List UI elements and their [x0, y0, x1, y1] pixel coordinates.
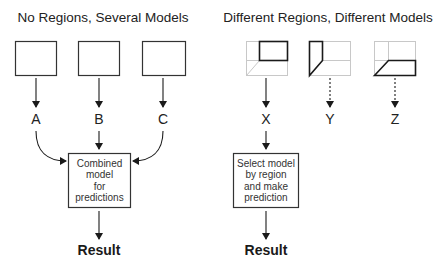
region-box-x [247, 42, 288, 76]
combiner-line-3: for [94, 181, 106, 193]
left-result-label: Result [78, 242, 121, 258]
selector-box-text: Select model by region and make predicti… [234, 154, 298, 207]
region-box-z [375, 42, 416, 76]
selector-line-1: Select model [237, 158, 295, 170]
model-label-a: A [31, 111, 40, 127]
model-box-b [79, 42, 120, 76]
region-box-y [310, 42, 351, 76]
selector-line-2: by region [245, 169, 286, 181]
model-label-x: X [261, 111, 270, 127]
selector-line-4: prediction [244, 192, 287, 204]
combiner-line-1: Combined [77, 158, 123, 170]
combiner-line-2: model [86, 169, 113, 181]
curve-arrow-a [36, 131, 66, 161]
combiner-line-4: predictions [75, 192, 123, 204]
selector-line-3: and make [244, 181, 288, 193]
right-panel-title: Different Regions, Different Models [223, 10, 433, 25]
left-panel-title: No Regions, Several Models [17, 10, 188, 25]
model-box-a [16, 42, 57, 76]
right-result-label: Result [245, 242, 288, 258]
model-box-c [143, 42, 186, 76]
curve-arrow-c [133, 131, 163, 161]
model-label-z: Z [391, 111, 400, 127]
model-label-b: B [94, 111, 103, 127]
model-label-c: C [158, 111, 168, 127]
model-label-y: Y [325, 111, 334, 127]
combiner-box-text: Combined model for predictions [69, 154, 130, 207]
